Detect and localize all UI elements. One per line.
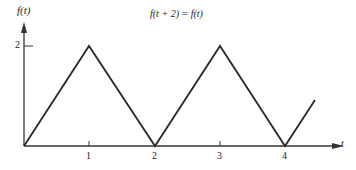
y-tick-label-2: 2 [15, 39, 20, 50]
x-tick-label-1: 1 [86, 150, 91, 161]
y-axis-arrow-icon [21, 22, 27, 33]
x-tick-label-3: 3 [217, 150, 222, 161]
chart-title: f(t + 2) = f(t) [150, 8, 203, 19]
chart-canvas [0, 0, 356, 170]
x-tick-label-2: 2 [152, 150, 157, 161]
x-axis-label: t [341, 138, 344, 149]
x-tick-label-4: 4 [282, 150, 287, 161]
triangle-wave-line [24, 46, 315, 146]
y-axis-label: f(t) [17, 4, 30, 16]
